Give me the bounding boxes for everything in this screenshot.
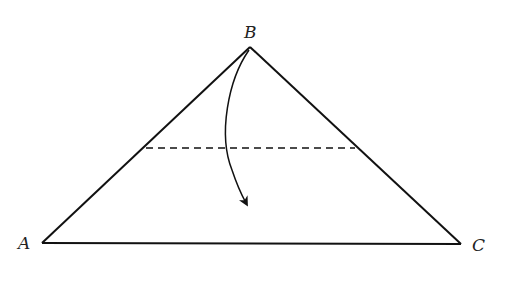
vertex-label-a: A	[16, 233, 30, 253]
side-bc	[250, 47, 461, 244]
triangle-diagram: A B C	[0, 0, 513, 295]
side-ab	[42, 47, 250, 243]
fold-arrow-icon	[226, 50, 249, 203]
vertex-label-b: B	[243, 22, 257, 42]
side-ac	[42, 243, 461, 244]
vertex-label-c: C	[472, 235, 485, 255]
